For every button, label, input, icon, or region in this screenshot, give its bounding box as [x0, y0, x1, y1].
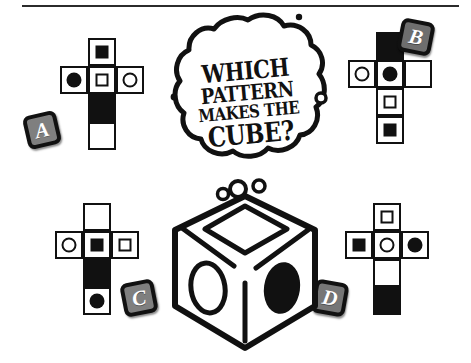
circle-filled-icon [67, 73, 82, 88]
pattern-c-cell-1-1 [83, 231, 111, 259]
pattern-d-cell-1-0 [345, 231, 373, 259]
pattern-a-cell-1-1 [88, 66, 116, 94]
square-filled-icon [96, 46, 109, 59]
bubble-dot-top [296, 14, 302, 20]
pattern-b-cell-1-2 [404, 60, 432, 88]
circle-filled-icon [408, 238, 423, 253]
pattern-a-cell-1-2 [116, 66, 144, 94]
pattern-d[interactable] [345, 203, 429, 315]
circle-filled-icon [383, 67, 398, 82]
target-cube [160, 178, 330, 358]
pattern-c-cell-1-0 [55, 231, 83, 259]
option-tile-a[interactable]: A [22, 110, 63, 151]
puzzle-page: A B C D WHICH PATTERN MAKES THE CUBE? [0, 0, 471, 363]
pattern-d-cell-3-1 [373, 287, 401, 315]
square-outline-icon [381, 211, 394, 224]
pattern-d-cell-1-1 [373, 231, 401, 259]
pattern-b-cell-1-0 [348, 60, 376, 88]
pattern-a[interactable] [60, 38, 144, 150]
pattern-b-cell-1-1 [376, 60, 404, 88]
pattern-a-cell-1-0 [60, 66, 88, 94]
pattern-c-cell-1-2 [111, 231, 139, 259]
pattern-c-cell-0-1 [83, 203, 111, 231]
square-outline-icon [119, 239, 132, 252]
square-outline-icon [384, 96, 397, 109]
square-filled-icon [384, 124, 397, 137]
circle-filled-icon [90, 294, 105, 309]
pattern-d-cell-1-2 [401, 231, 429, 259]
square-filled-icon [91, 239, 104, 252]
pattern-c-cell-2-1 [83, 259, 111, 287]
bubble-tail-large [253, 180, 265, 192]
square-filled-icon [353, 239, 366, 252]
pattern-a-cell-2-1 [88, 94, 116, 122]
pattern-a-cell-0-1 [88, 38, 116, 66]
square-outline-icon [96, 74, 109, 87]
option-letter-c: C [130, 286, 148, 309]
circle-outline-icon [123, 73, 138, 88]
option-tile-b[interactable]: B [396, 17, 436, 57]
bubble-tail-small [218, 189, 229, 200]
pattern-a-cell-3-1 [88, 122, 116, 150]
option-letter-a: A [33, 118, 51, 142]
cube-drawing [160, 178, 330, 358]
pattern-b-cell-3-1 [376, 116, 404, 144]
circle-outline-icon [355, 67, 370, 82]
option-letter-b: B [407, 25, 425, 48]
thought-bubble: WHICH PATTERN MAKES THE CUBE? [168, 12, 328, 192]
pattern-d-cell-0-1 [373, 203, 401, 231]
thought-bubble-shape [168, 12, 328, 192]
option-tile-c[interactable]: C [119, 278, 159, 318]
pattern-b-cell-2-1 [376, 88, 404, 116]
pattern-d-cell-2-1 [373, 259, 401, 287]
circle-outline-icon [62, 238, 77, 253]
top-divider-rule [22, 5, 459, 7]
pattern-c-cell-3-1 [83, 287, 111, 315]
bubble-dot-right [316, 93, 326, 103]
bubble-dot-left [171, 94, 178, 101]
circle-outline-icon [380, 238, 395, 253]
